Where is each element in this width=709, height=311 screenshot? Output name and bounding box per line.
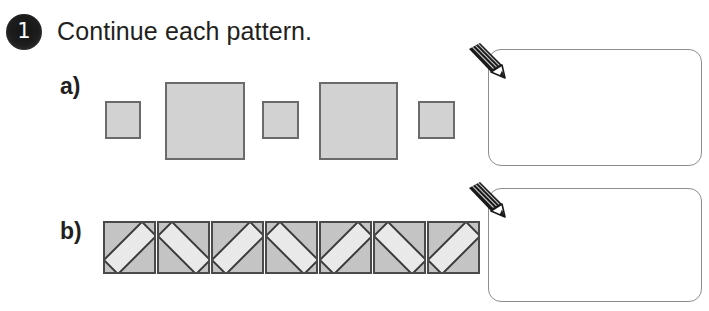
pattern-a-square-3: [262, 101, 299, 139]
pattern-a-square-5: [418, 101, 455, 139]
question-number-label: 1: [17, 21, 30, 42]
pattern-b-tile-6: [373, 221, 426, 274]
pencil-icon: [466, 182, 512, 222]
part-label-a: a): [60, 73, 80, 100]
pattern-a-square-1: [105, 101, 141, 139]
pattern-b-bar-5: [319, 221, 372, 274]
pencil-icon: [466, 43, 512, 83]
part-label-b: b): [60, 218, 82, 245]
pattern-b-tile-2: [157, 221, 210, 274]
pattern-b-tile-4: [265, 221, 318, 274]
pattern-b-tile-7: [427, 221, 480, 274]
pattern-b-bar-7: [427, 221, 480, 274]
pattern-b-bar-6: [373, 221, 426, 274]
answer-box-a[interactable]: [488, 49, 702, 166]
worksheet-page: 1 Continue each pattern. a) b): [0, 0, 709, 311]
pattern-b-tile-1: [103, 221, 156, 274]
pattern-b-tile-5: [319, 221, 372, 274]
pattern-b-tile-3: [211, 221, 264, 274]
pattern-a-square-2: [165, 82, 245, 160]
pattern-b-bar-4: [265, 221, 318, 274]
pattern-b-bar-3: [211, 221, 264, 274]
pattern-b-bar-2: [157, 221, 210, 274]
pattern-a-square-4: [319, 82, 398, 160]
instruction-text: Continue each pattern.: [57, 17, 312, 46]
answer-box-b[interactable]: [488, 188, 702, 302]
pattern-b-bar-1: [103, 221, 156, 274]
question-number-badge: 1: [6, 14, 42, 50]
